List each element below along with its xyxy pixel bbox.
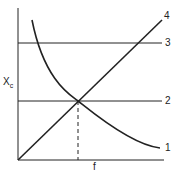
x-axis-label: f (93, 162, 96, 172)
y-axis-label: Xc (3, 77, 13, 89)
label-2: 2 (165, 96, 171, 106)
label-3: 3 (165, 38, 171, 48)
label-4: 4 (164, 11, 170, 21)
line-4 (18, 20, 162, 160)
diagram: Xc f 1 2 3 4 (0, 0, 172, 173)
diagram-graphics (0, 0, 172, 173)
label-1: 1 (165, 143, 171, 153)
